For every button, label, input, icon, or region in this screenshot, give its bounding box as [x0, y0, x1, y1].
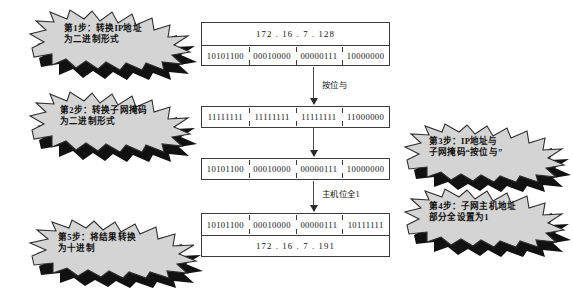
- and-result-octet-1: 10101100: [202, 159, 249, 179]
- and-result-octet-3: 00000111: [296, 159, 343, 179]
- callout-step4: 第4步：子网主机地址 部分全设置为1: [399, 187, 571, 247]
- mask-binary-octet-4: 11000000: [342, 107, 389, 127]
- callout-step1: 第1步：转换IP地址 为二进制形式: [22, 8, 198, 70]
- table-row: 11111111 11111111 11111111 11000000: [202, 107, 389, 127]
- table-row: 172 . 16 . 7 . 191: [202, 235, 389, 256]
- and-result-octet-4: 10000000: [342, 159, 389, 179]
- table-row: 10101100 00010000 00000111 10000000: [202, 159, 389, 179]
- arrow-head-icon: [310, 150, 318, 157]
- ip-binary-octet-4: 10000000: [342, 46, 389, 66]
- table-broadcast-address: 10101100 00010000 00000111 10111111 172 …: [201, 213, 390, 257]
- ip-binary-octet-2: 00010000: [249, 46, 296, 66]
- mask-binary-octet-2: 11111111: [249, 107, 296, 127]
- table-row: 10101100 00010000 00000111 10000000: [202, 45, 389, 66]
- ip-binary-octet-3: 00000111: [296, 46, 343, 66]
- callout-step2: 第2步：转换子网掩码 为二进制形式: [22, 90, 198, 152]
- mask-binary-octet-1: 11111111: [202, 107, 249, 127]
- table-row: 172 . 16 . 7 . 128: [202, 23, 389, 45]
- callout-step3: 第3步：IP地址与 子网掩码“按位与”: [399, 122, 571, 182]
- broadcast-binary-octet-2: 00010000: [249, 214, 296, 235]
- mask-binary-octet-3: 11111111: [296, 107, 343, 127]
- broadcast-binary-octet-4: 10111111: [342, 214, 389, 235]
- and-result-octet-2: 00010000: [249, 159, 296, 179]
- broadcast-decimal-value: 172 . 16 . 7 . 191: [202, 236, 389, 256]
- table-and-result: 10101100 00010000 00000111 10000000: [201, 158, 390, 180]
- arrow-host-bits: [313, 181, 314, 211]
- starburst-shape: [399, 122, 571, 182]
- table-subnet-mask: 11111111 11111111 11111111 11000000: [201, 106, 390, 128]
- arrow-and-label: 按位与: [322, 78, 347, 90]
- arrow-and: [313, 67, 314, 104]
- starburst-shape: [399, 187, 571, 247]
- starburst-shape: [22, 90, 198, 152]
- arrow-head-icon: [310, 98, 318, 105]
- broadcast-binary-octet-1: 10101100: [202, 214, 249, 235]
- starburst-shape: [22, 8, 198, 70]
- arrow-head-icon: [310, 205, 318, 212]
- arrow-host-bits-label: 主机位全1: [322, 187, 360, 199]
- table-row: 10101100 00010000 00000111 10111111: [202, 214, 389, 235]
- ip-binary-octet-1: 10101100: [202, 46, 249, 66]
- starburst-shape: [24, 218, 204, 278]
- ip-decimal-value: 172 . 16 . 7 . 128: [202, 23, 389, 45]
- callout-step5: 第5步：将结果转换 为十进制: [24, 218, 204, 278]
- table-ip-address: 172 . 16 . 7 . 128 10101100 00010000 000…: [201, 22, 390, 66]
- diagram-canvas: 172 . 16 . 7 . 128 10101100 00010000 000…: [0, 0, 573, 294]
- broadcast-binary-octet-3: 00000111: [296, 214, 343, 235]
- arrow-to-and-result: [313, 128, 314, 156]
